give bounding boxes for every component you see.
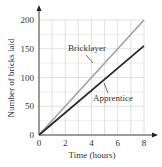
y-tick-label: 0 [30,130,35,140]
x-tick-label: 0 [37,138,42,148]
series-label-bricklayer: Bricklayer [68,43,106,53]
x-axis-title: Time (hours) [69,150,116,160]
y-tick-label: 150 [21,44,35,54]
y-tick-label: 100 [21,73,35,83]
x-tick-label: 8 [142,138,147,148]
y-axis-arrow-icon [37,5,42,11]
x-tick-label: 4 [89,138,94,148]
x-tick-label: 6 [116,138,121,148]
y-axis-title: Number of bricks laid [6,38,16,118]
line-chart: 02468050100150200 Bricklayer Apprentice … [0,0,162,167]
y-tick-label: 50 [25,101,35,111]
x-tick-label: 2 [63,138,68,148]
series-label-apprentice: Apprentice [93,93,133,103]
y-tick-label: 200 [21,15,35,25]
x-axis-arrow-icon [152,133,158,138]
bricklayer-leader-line [86,55,93,63]
